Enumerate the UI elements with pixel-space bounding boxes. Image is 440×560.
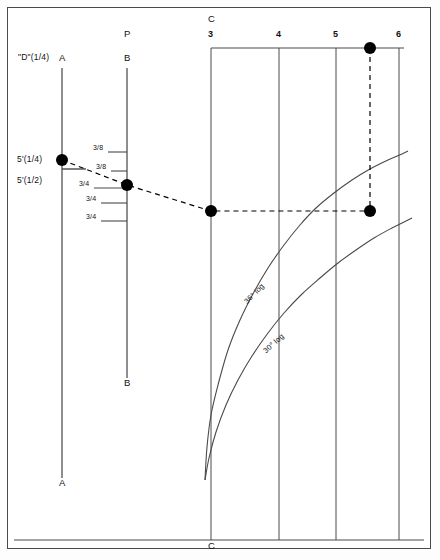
marker-dot-0 [56, 154, 68, 166]
plot-area: "D"(1/4) A A P B B C C 34565'(1/4)5'(1/2… [0, 0, 440, 560]
scale-b-bottom-letter: B [124, 378, 131, 388]
nomograph-svg [0, 0, 440, 560]
scale-tick-marks [62, 152, 127, 221]
construction-dashed-path [62, 48, 370, 211]
grid-number-5: 5 [333, 30, 338, 39]
marker-dot-3 [364, 205, 376, 217]
vertical-scale-lines [62, 48, 399, 540]
scale-a-point-label-1: 5'(1/2) [17, 176, 42, 185]
marker-dot-2 [205, 205, 217, 217]
scale-b-tick-label-2: 3/4 [79, 180, 89, 187]
p-label: P [124, 29, 131, 39]
scale-b-tick-label-4: 3/4 [86, 213, 96, 220]
d-axis-label: "D"(1/4) [18, 53, 49, 62]
scale-b-tick-label-3: 3/4 [86, 195, 96, 202]
log-curves [205, 151, 412, 480]
c-label-top: C [208, 14, 215, 24]
curve-2 [205, 218, 412, 480]
rail-lines [14, 48, 424, 540]
marker-dot-4 [364, 42, 376, 54]
construction-markers [56, 42, 376, 217]
nomograph-figure: "D"(1/4) A A P B B C C 34565'(1/4)5'(1/2… [0, 0, 440, 560]
c-label-bottom: C [208, 541, 215, 551]
scale-a-top-letter: A [59, 53, 66, 63]
curve-1 [205, 151, 408, 480]
grid-number-4: 4 [276, 30, 281, 39]
scale-b-tick-label-1: 3/8 [96, 163, 106, 170]
grid-number-6: 6 [396, 30, 401, 39]
scale-a-bottom-letter: A [59, 478, 66, 488]
scale-a-point-label-0: 5'(1/4) [17, 155, 42, 164]
marker-dot-1 [121, 179, 133, 191]
grid-number-3: 3 [208, 30, 213, 39]
scale-b-tick-label-0: 3/8 [93, 144, 103, 151]
scale-b-top-letter: B [124, 53, 131, 63]
